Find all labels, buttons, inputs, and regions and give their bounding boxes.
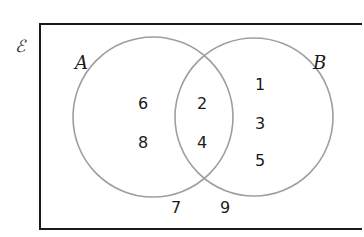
element-intersection: 4 [197,133,207,152]
element-b-only: 3 [255,114,265,133]
set-b-label: B [312,52,326,73]
element-a-only: 6 [138,94,148,113]
universal-set-symbol: ℰ [15,36,27,56]
set-a-label: A [73,52,88,73]
venn-diagram: ℰ A B 6 8 2 4 1 3 5 7 9 [0,0,364,237]
element-intersection: 2 [197,94,207,113]
element-outside: 9 [220,198,230,217]
element-b-only: 5 [255,151,265,170]
element-b-only: 1 [255,75,265,94]
element-a-only: 8 [138,133,148,152]
element-outside: 7 [171,198,181,217]
set-a-circle [73,37,233,197]
set-b-circle [175,38,333,196]
